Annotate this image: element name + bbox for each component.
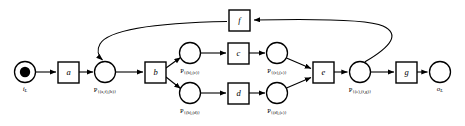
place-p-e-fg[interactable]	[350, 62, 371, 83]
petri-net-diagram: a b c d e f g iL P{(a,f),(b)} P{(b),(c)}…	[0, 0, 465, 126]
place-p-c-e-label: P{(c),(e)}	[239, 68, 315, 76]
place-i-L-label: iL	[5, 86, 45, 93]
token-i-L	[20, 67, 30, 77]
arc-b-pbc	[166, 58, 181, 69]
place-p-d-e-label: P{(d),(e)}	[239, 108, 315, 116]
place-o-L[interactable]	[430, 62, 451, 83]
place-p-d-e-label-sub: {(d),(e)}	[271, 110, 287, 115]
place-p-c-e[interactable]	[267, 43, 288, 64]
place-p-af-b-label: P{(a,f),(b)}	[65, 87, 145, 95]
transition-g-label: g	[396, 68, 417, 77]
place-p-af-b[interactable]	[95, 62, 116, 83]
transition-e-label: e	[313, 68, 334, 77]
transition-c-label: c	[228, 49, 249, 58]
place-i-L-label-sub: L	[25, 88, 28, 93]
place-o-L-label-sub: L	[440, 88, 443, 93]
arc-pde-e	[287, 78, 312, 89]
arc-pce-e	[287, 58, 312, 69]
transition-f-label: f	[229, 16, 250, 25]
place-p-d-e[interactable]	[267, 83, 288, 104]
transition-a-label: a	[58, 68, 79, 77]
place-p-b-c[interactable]	[180, 43, 201, 64]
arc-b-pbd	[166, 77, 181, 89]
transition-d-label: d	[228, 89, 249, 98]
place-p-e-fg-label: P{(e),(f,g)}	[320, 87, 400, 95]
place-p-b-c-label-sub: {(b),(c)}	[184, 70, 200, 75]
place-p-c-e-label-sub: {(c),(e)}	[271, 70, 287, 75]
place-p-e-fg-label-sub: {(e),(f,g)}	[352, 89, 371, 94]
place-p-b-d-label: P{(b),(d)}	[152, 108, 228, 116]
place-p-b-d-label-sub: {(b),(d)}	[184, 110, 200, 115]
place-o-L-label: oL	[420, 86, 460, 93]
place-p-b-d[interactable]	[180, 83, 201, 104]
place-p-b-c-label: P{(b),(c)}	[152, 68, 228, 76]
arc-f-paf	[98, 22, 227, 61]
place-p-af-b-label-sub: {(a,f),(b)}	[97, 89, 116, 94]
